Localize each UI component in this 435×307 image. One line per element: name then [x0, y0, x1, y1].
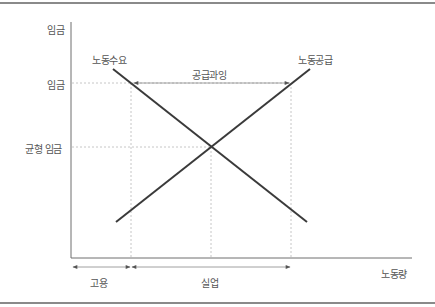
- labor-market-diagram: [0, 0, 435, 307]
- demand-curve: [113, 69, 307, 222]
- unemployment-label: 실업: [201, 275, 218, 290]
- equilibrium-wage-tick-label: 균형 임금: [25, 141, 62, 156]
- y-axis-label: 임금: [47, 22, 64, 37]
- demand-curve-label: 노동수요: [92, 52, 126, 67]
- wage-tick-label: 임금: [47, 77, 64, 92]
- x-axis-label: 노동량: [381, 266, 407, 281]
- supply-curve-label: 노동공급: [298, 52, 332, 67]
- supply-curve: [116, 69, 310, 222]
- employment-label: 고용: [90, 275, 107, 290]
- surplus-label: 공급과잉: [192, 67, 226, 82]
